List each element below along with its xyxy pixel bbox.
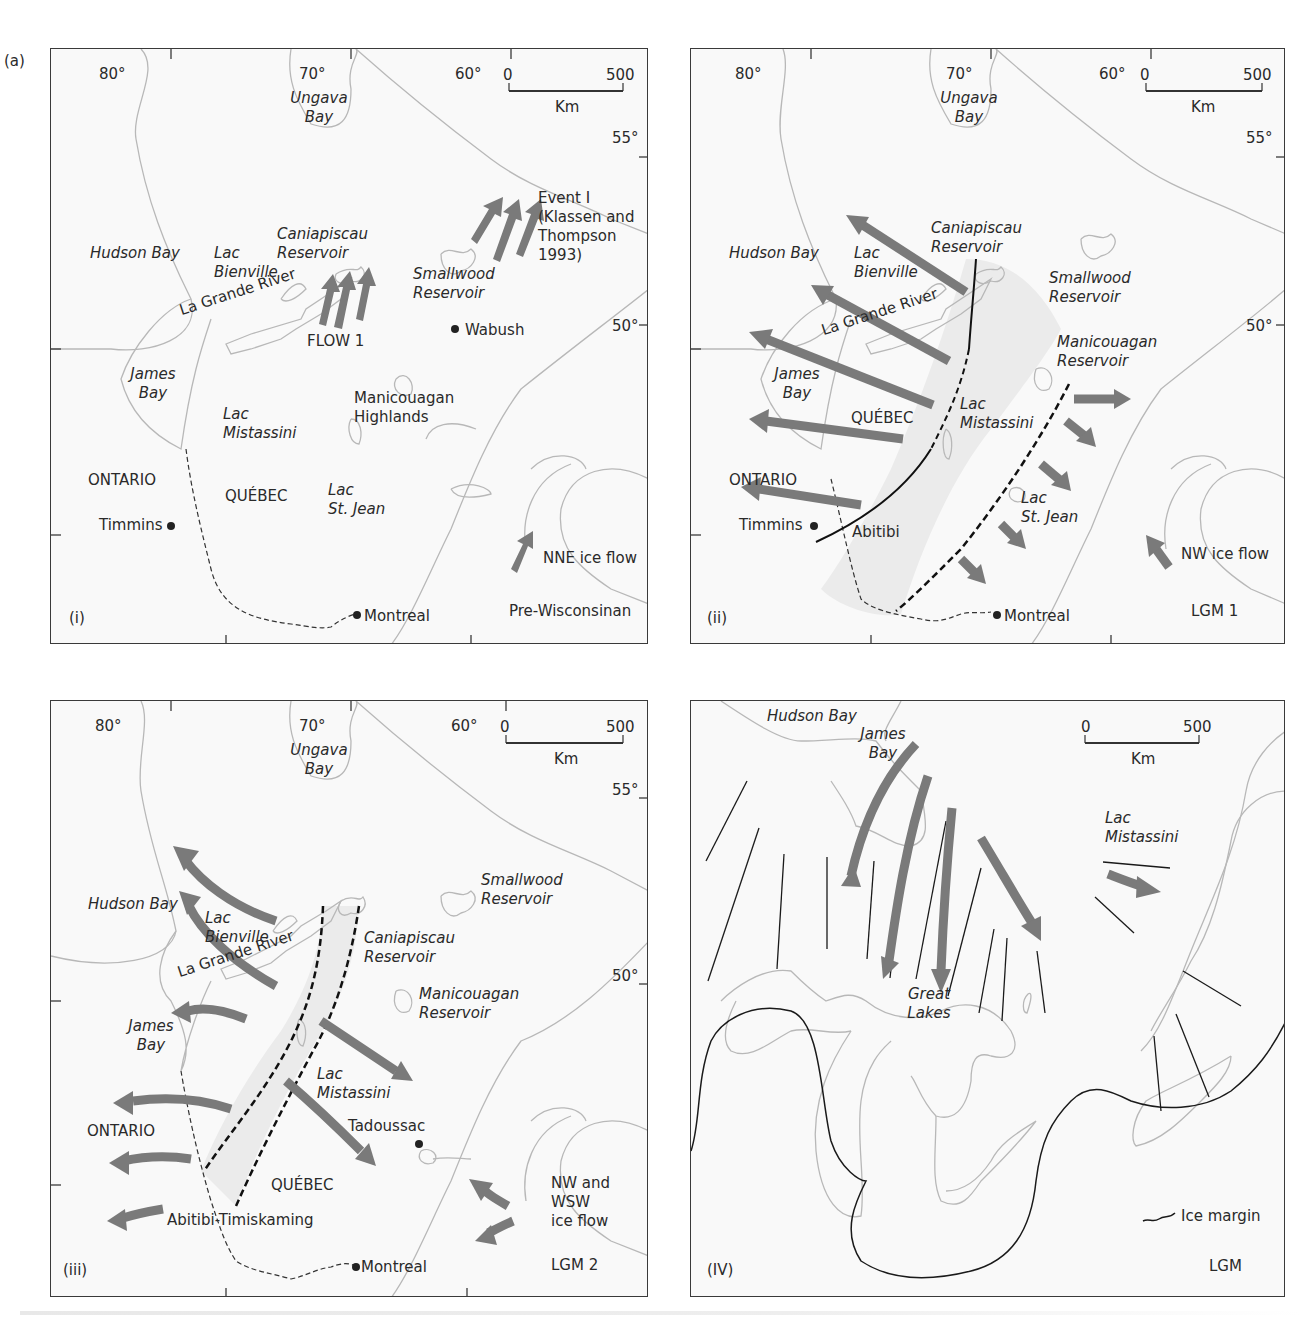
scale-end: 500	[606, 718, 635, 737]
label-montreal: Montreal	[1004, 607, 1070, 626]
label-lac-st-jean: LacSt. Jean	[1021, 489, 1078, 527]
latitude-50: 50°	[1246, 317, 1273, 336]
label-hudson-bay: Hudson Bay	[729, 244, 819, 263]
label-event-i: Event I(Klassen andThompson1993)	[538, 189, 634, 265]
label-nw-wsw-ice-flow: NW andWSWice flow	[551, 1174, 610, 1231]
scale-unit: Km	[554, 750, 578, 769]
label-abitibi: Abitibi	[852, 523, 900, 542]
label-flow-1: FLOW 1	[307, 332, 364, 351]
label-montreal: Montreal	[361, 1258, 427, 1277]
label-lac-st-jean: LacSt. Jean	[328, 481, 385, 519]
longitude-80: 80°	[99, 65, 126, 84]
figure-label: (a)	[4, 52, 25, 70]
longitude-70: 70°	[299, 65, 326, 84]
scale-end: 500	[606, 66, 635, 85]
label-lac-mistassini: LacMistassini	[223, 405, 296, 443]
latitude-50: 50°	[612, 317, 639, 336]
figure-caption-cutoff	[20, 1304, 1300, 1318]
label-tadoussac: Tadoussac	[348, 1117, 425, 1136]
label-ungava-bay: UngavaBay	[939, 89, 999, 127]
longitude-60: 60°	[1099, 65, 1126, 84]
label-great-lakes: GreatLakes	[901, 985, 957, 1023]
latitude-55: 55°	[1246, 129, 1273, 148]
label-lac-bienville: LacBienville	[854, 244, 918, 282]
map-panel-iii: 80° 70° 60° 55° 50° 0 500 Km UngavaBay H…	[50, 700, 648, 1297]
latitude-55: 55°	[612, 781, 639, 800]
label-james-bay: JamesBay	[855, 725, 911, 763]
longitude-60: 60°	[451, 717, 478, 736]
label-manicouagan-reservoir: ManicouaganReservoir	[1057, 333, 1157, 371]
scale-start: 0	[1081, 718, 1091, 737]
label-lac-mistassini: LacMistassini	[1105, 809, 1178, 847]
label-quebec: QUÉBEC	[271, 1176, 334, 1195]
label-quebec: QUÉBEC	[225, 487, 288, 506]
label-caniapiscau-reservoir: CaniapiscauReservoir	[931, 219, 1022, 257]
label-hudson-bay: Hudson Bay	[90, 244, 180, 263]
scale-unit: Km	[1131, 750, 1155, 769]
label-hudson-bay: Hudson Bay	[767, 707, 857, 726]
period-label: LGM	[1209, 1257, 1242, 1276]
label-manicouagan-highlands: ManicouaganHighlands	[354, 389, 454, 427]
map-panel-ii: 80° 70° 60° 55° 50° 0 500 Km UngavaBay H…	[690, 48, 1285, 644]
ice-flow-arrows	[851, 744, 1141, 971]
label-ontario: ONTARIO	[87, 1122, 155, 1141]
period-label: LGM 2	[551, 1256, 598, 1275]
scale-end: 500	[1243, 66, 1272, 85]
ice-margin-legend-symbol	[1143, 1213, 1175, 1221]
label-abitibi-timiskaming: Abitibi-Timiskaming	[167, 1211, 314, 1230]
scale-start: 0	[1140, 66, 1150, 85]
label-caniapiscau-reservoir: CaniapiscauReservoir	[364, 929, 455, 967]
longitude-80: 80°	[735, 65, 762, 84]
label-smallwood-reservoir: SmallwoodReservoir	[481, 871, 563, 909]
label-ungava-bay: UngavaBay	[289, 89, 349, 127]
label-timmins: Timmins	[99, 516, 163, 535]
label-quebec: QUÉBEC	[851, 409, 914, 428]
label-james-bay: JamesBay	[769, 365, 825, 403]
label-ice-margin-legend: Ice margin	[1181, 1207, 1261, 1226]
scale-unit: Km	[555, 98, 579, 117]
scale-unit: Km	[1191, 98, 1215, 117]
label-smallwood-reservoir: SmallwoodReservoir	[413, 265, 495, 303]
panel-tag: (i)	[69, 609, 85, 628]
ice-margin-line	[691, 1008, 1285, 1277]
longitude-70: 70°	[946, 65, 973, 84]
latitude-50: 50°	[612, 967, 639, 986]
panel-tag: (IV)	[707, 1261, 733, 1280]
longitude-70: 70°	[299, 717, 326, 736]
period-label: Pre-Wisconsinan	[509, 602, 631, 621]
label-lac-mistassini: LacMistassini	[317, 1065, 390, 1103]
longitude-80: 80°	[95, 717, 122, 736]
label-ungava-bay: UngavaBay	[289, 741, 349, 779]
label-james-bay: JamesBay	[125, 365, 181, 403]
period-label: LGM 1	[1191, 602, 1238, 621]
label-ontario: ONTARIO	[729, 471, 797, 490]
label-lac-mistassini: LacMistassini	[960, 395, 1033, 433]
label-james-bay: JamesBay	[123, 1017, 179, 1055]
scale-start: 0	[503, 66, 513, 85]
label-nne-ice-flow: NNE ice flow	[543, 549, 637, 568]
label-montreal: Montreal	[364, 607, 430, 626]
label-wabush: Wabush	[465, 321, 524, 340]
label-caniapiscau-reservoir: CaniapiscauReservoir	[277, 225, 368, 263]
label-manicouagan-reservoir: ManicouaganReservoir	[419, 985, 519, 1023]
label-nw-ice-flow: NW ice flow	[1181, 545, 1269, 564]
label-hudson-bay: Hudson Bay	[88, 895, 178, 914]
panel-tag: (ii)	[707, 609, 727, 628]
panel-tag: (iii)	[63, 1261, 87, 1280]
label-smallwood-reservoir: SmallwoodReservoir	[1049, 269, 1131, 307]
longitude-60: 60°	[455, 65, 482, 84]
scale-end: 500	[1183, 718, 1212, 737]
map-panel-iv: 0 500 Km Hudson Bay JamesBay LacMistassi…	[690, 700, 1285, 1297]
label-timmins: Timmins	[739, 516, 803, 535]
latitude-55: 55°	[612, 129, 639, 148]
scale-start: 0	[500, 718, 510, 737]
map-panel-i: 80° 70° 60° 55° 50° 0 500 Km UngavaBay H…	[50, 48, 648, 644]
label-ontario: ONTARIO	[88, 471, 156, 490]
